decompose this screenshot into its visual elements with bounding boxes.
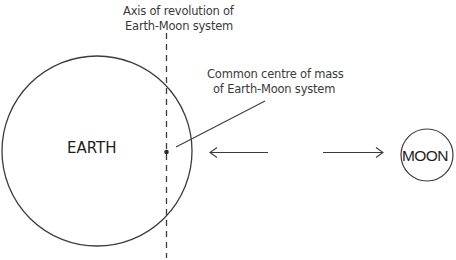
centre-of-mass-label-line1: Common centre of mass — [207, 67, 344, 81]
centre-of-mass-dot — [164, 150, 169, 155]
earth-moon-barycentre-diagram: EARTH Axis of revolution of Earth-Moon s… — [0, 0, 456, 260]
centre-of-mass-leader-line — [176, 101, 265, 147]
axis-label-line1: Axis of revolution of — [123, 4, 235, 18]
earth-label: EARTH — [67, 139, 117, 157]
moon-label: MOON — [402, 147, 448, 164]
arrow-left-icon — [210, 148, 268, 158]
centre-of-mass-label-line2: of Earth-Moon system — [213, 82, 335, 96]
axis-label-line2: Earth-Moon system — [125, 19, 233, 33]
arrow-right-icon — [323, 148, 383, 158]
